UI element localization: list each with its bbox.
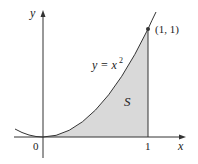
figure: y x 0 1 (1, 1) y = x 2 S: [0, 0, 198, 164]
point-1-1: [146, 27, 150, 31]
curve-label-exponent: 2: [119, 56, 123, 65]
region-s: [43, 29, 148, 137]
y-axis-arrow-icon: [41, 10, 46, 17]
y-axis-label: y: [29, 6, 36, 20]
point-label: (1, 1): [155, 23, 179, 36]
x-axis-label: x: [177, 139, 184, 153]
tick-label-1: 1: [145, 140, 151, 152]
curve-label: y = x: [91, 58, 117, 72]
tick-label-0: 0: [33, 140, 39, 152]
region-label: S: [124, 94, 131, 109]
